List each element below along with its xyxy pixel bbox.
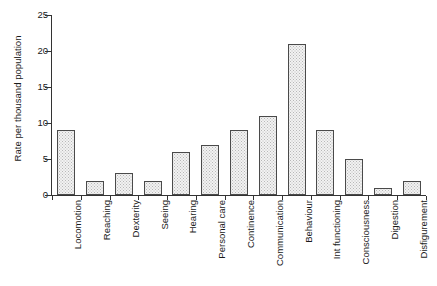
bar xyxy=(403,181,421,195)
x-axis-tick-mark xyxy=(110,196,111,200)
y-axis-tick-labels: 0510152025 xyxy=(24,0,48,200)
y-axis-tick-mark xyxy=(45,123,51,124)
x-axis-category-label: Seeing xyxy=(158,200,172,286)
x-axis-category-label: Personal care xyxy=(215,200,229,286)
x-axis-tick-mark xyxy=(225,196,226,200)
x-axis-tick-mark xyxy=(368,196,369,200)
x-axis-category-label: Reaching xyxy=(100,200,114,286)
x-axis-tick-mark xyxy=(52,196,53,200)
bar xyxy=(172,152,190,195)
y-axis-tick-mark xyxy=(45,87,51,88)
bar xyxy=(115,173,133,195)
bar-chart-figure: Rate per thousand population 0510152025 … xyxy=(0,0,437,286)
x-axis-tick-mark xyxy=(340,196,341,200)
x-axis-line xyxy=(51,195,426,196)
x-axis-tick-mark xyxy=(426,196,427,200)
x-axis-category-label: Digestion xyxy=(388,200,402,286)
x-axis-tick-mark xyxy=(138,196,139,200)
x-axis-category-label: Disfigurement xyxy=(417,200,431,286)
bar xyxy=(57,130,75,195)
bar xyxy=(374,188,392,195)
x-axis-tick-mark xyxy=(397,196,398,200)
bar xyxy=(144,181,162,195)
bar xyxy=(345,159,363,195)
y-axis-tick-mark xyxy=(45,159,51,160)
y-axis-tick-mark xyxy=(45,15,51,16)
bar xyxy=(86,181,104,195)
bar xyxy=(230,130,248,195)
x-axis-category-label: Consciousness xyxy=(359,200,373,286)
bar xyxy=(288,44,306,195)
x-axis-category-label: Communication xyxy=(273,200,287,286)
bar xyxy=(201,145,219,195)
x-axis-tick-mark xyxy=(253,196,254,200)
x-axis-category-label: Locomotion xyxy=(71,200,85,286)
x-axis-category-label: Continence xyxy=(244,200,258,286)
bar xyxy=(259,116,277,195)
x-axis-tick-mark xyxy=(196,196,197,200)
x-axis-category-label: Dexterity xyxy=(129,200,143,286)
y-axis-title-text: Rate per thousand population xyxy=(12,35,23,161)
x-axis-tick-mark xyxy=(167,196,168,200)
x-axis-category-label: Hearing xyxy=(186,200,200,286)
plot-area xyxy=(52,15,426,195)
bar xyxy=(316,130,334,195)
y-axis-tick-mark xyxy=(45,195,51,196)
x-axis-tick-mark xyxy=(311,196,312,200)
x-axis-category-label: Int functioning xyxy=(330,200,344,286)
x-axis-category-label: Behaviour xyxy=(302,200,316,286)
x-axis-tick-mark xyxy=(81,196,82,200)
x-axis-tick-mark xyxy=(282,196,283,200)
y-axis-tick-mark xyxy=(45,51,51,52)
x-axis-category-labels: LocomotionReachingDexteritySeeingHearing… xyxy=(52,200,426,286)
